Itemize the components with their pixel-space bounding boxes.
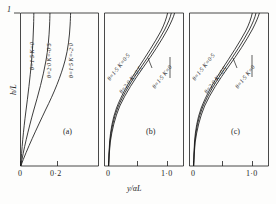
tick-label-a-0: 0 xyxy=(18,169,22,178)
curve-a-theta20-km05 xyxy=(21,13,50,166)
tick-label-a-02: 0·2 xyxy=(50,169,62,178)
chart-svg xyxy=(0,0,276,204)
panel-b-frame xyxy=(105,13,184,166)
y-top-tick-label: 1 xyxy=(7,5,11,14)
tick-label-c-0: 0 xyxy=(191,169,195,178)
panel-b-ticks xyxy=(109,161,168,166)
panel-a-frame xyxy=(21,13,99,166)
panel-c-frame xyxy=(190,13,269,166)
panel-a-curves xyxy=(21,13,71,166)
curve-label-a-theta15-k0: θ=1·5 K=0 xyxy=(29,42,35,70)
panel-a-ticks xyxy=(21,161,58,166)
curve-c-theta15-k05 xyxy=(194,13,253,166)
panel-c-ticks xyxy=(194,161,253,166)
panel-label-a: (a) xyxy=(63,127,72,136)
curve-a-theta15-k0 xyxy=(21,13,34,166)
y-axis-label: h/L xyxy=(9,84,18,95)
x-axis-label: y/αL xyxy=(127,184,141,193)
figure-canvas: h/L 1 y/αL 0 0·2 0 1·0 0 1·0 (a) (b) (c)… xyxy=(0,0,276,204)
panel-label-c: (c) xyxy=(231,127,240,136)
leader-b-theta20 xyxy=(148,58,152,68)
tick-label-b-10: 1·0 xyxy=(161,169,173,178)
curve-label-a-theta15-km20: θ=1·5 K=-2·0 xyxy=(68,43,74,78)
curve-label-a-theta20-km05: θ=2·0 K=-0·5 xyxy=(46,43,52,78)
tick-label-c-10: 1·0 xyxy=(246,169,258,178)
leader-c-theta20 xyxy=(233,58,237,68)
tick-label-b-0: 0 xyxy=(106,169,110,178)
panel-label-b: (b) xyxy=(146,127,155,136)
